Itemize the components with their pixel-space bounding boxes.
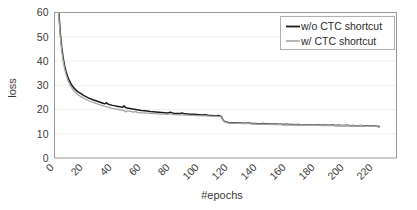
y-tick-label-40: 40: [37, 55, 49, 67]
loss-vs-epochs-line-chart: 0102030405060 02040608010012014016018020…: [0, 0, 417, 210]
y-tick-label-10: 10: [37, 128, 49, 140]
y-tick-label-60: 60: [37, 6, 49, 18]
chart-container: 0102030405060 02040608010012014016018020…: [0, 0, 417, 210]
y-tick-label-20: 20: [37, 103, 49, 115]
y-tick-label-30: 30: [37, 79, 49, 91]
chart-legend[interactable]: w/o CTC shortcut w/ CTC shortcut: [281, 17, 395, 50]
y-tick-label-50: 50: [37, 31, 49, 43]
legend-label-wo-ctc-shortcut: w/o CTC shortcut: [300, 20, 382, 32]
y-axis-title: loss: [6, 78, 18, 98]
legend-label-w-ctc-shortcut: w/ CTC shortcut: [300, 35, 376, 47]
x-axis-title: #epochs: [201, 189, 243, 201]
